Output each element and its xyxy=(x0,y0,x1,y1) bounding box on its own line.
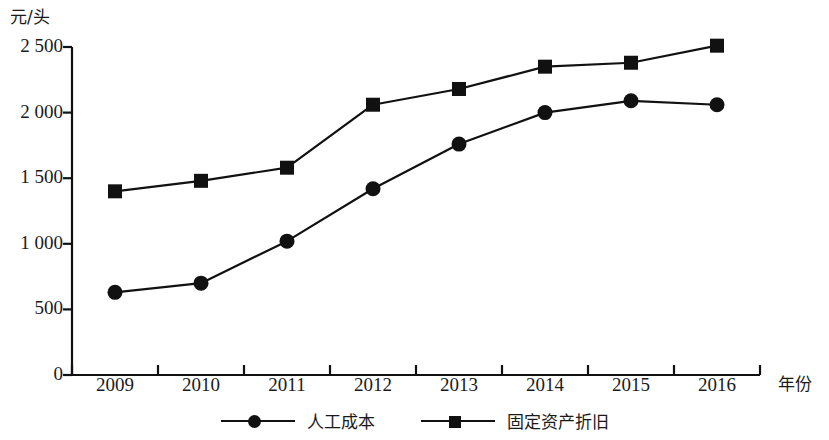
x-axis-tick-label: 2012 xyxy=(330,374,416,396)
legend-label: 固定资产折旧 xyxy=(507,408,609,433)
legend-label: 人工成本 xyxy=(307,408,375,433)
legend-item-labor-cost: 人工成本 xyxy=(221,408,375,433)
circle-marker-icon xyxy=(221,412,295,430)
y-axis-tick-label: 0 xyxy=(5,363,63,385)
x-axis-tick-label: 2009 xyxy=(72,374,158,396)
chart-legend: 人工成本 固定资产折旧 xyxy=(0,408,829,433)
x-axis-tick-label: 2015 xyxy=(588,374,674,396)
data-series-group xyxy=(108,39,725,300)
x-axis-tick-label: 2011 xyxy=(244,374,330,396)
y-axis-tick-label: 2 000 xyxy=(5,101,63,123)
x-axis-tick-label: 2016 xyxy=(674,374,760,396)
axes xyxy=(63,47,760,375)
x-axis-tick-label: 2013 xyxy=(416,374,502,396)
legend-item-fixed-asset-depreciation: 固定资产折旧 xyxy=(421,408,609,433)
line-chart: 元/头 年份 05001 0001 5002 0002 500 20092010… xyxy=(0,0,829,440)
y-axis-tick-label: 1 000 xyxy=(5,232,63,254)
y-axis-tick-label: 2 500 xyxy=(5,35,63,57)
y-axis-tick-label: 1 500 xyxy=(5,166,63,188)
y-axis-tick-label: 500 xyxy=(5,297,63,319)
square-marker-icon xyxy=(421,412,495,430)
x-axis-tick-label: 2014 xyxy=(502,374,588,396)
x-axis-tick-label: 2010 xyxy=(158,374,244,396)
